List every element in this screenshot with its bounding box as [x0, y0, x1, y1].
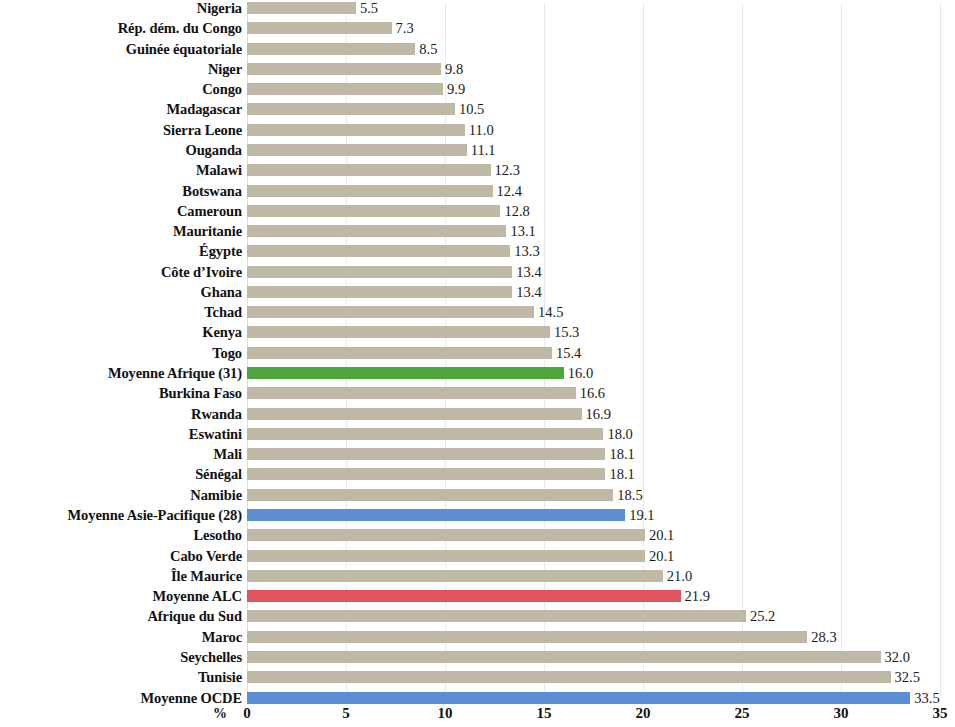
chart-row: Sierra Leone11.0: [0, 120, 955, 140]
bar-value-label: 5.5: [360, 1, 378, 16]
bar: [247, 266, 512, 278]
bar: [247, 164, 491, 176]
bar: [247, 529, 645, 541]
chart-row: Nigeria5.5: [0, 0, 955, 18]
chart-row: Rép. dém. du Congo7.3: [0, 18, 955, 38]
x-tick-label-10: 10: [438, 706, 453, 721]
chart-row: Madagascar10.5: [0, 99, 955, 119]
category-label: Mauritanie: [173, 224, 242, 239]
bar: [247, 2, 356, 14]
bar: [247, 367, 564, 379]
chart-row: Maroc28.3: [0, 627, 955, 647]
chart-row: Eswatini18.0: [0, 424, 955, 444]
category-label: Moyenne Asie-Pacifique (28): [68, 508, 243, 523]
bar-value-label: 12.8: [504, 204, 529, 219]
bar: [247, 692, 910, 704]
chart-row: Seychelles32.0: [0, 647, 955, 667]
bar: [247, 428, 603, 440]
category-label: Moyenne OCDE: [140, 690, 242, 705]
category-label: Congo: [202, 82, 242, 97]
bar: [247, 83, 443, 95]
chart-row: Sénégal18.1: [0, 464, 955, 484]
x-tick-label-0: 0: [243, 706, 251, 721]
chart-row: Congo9.9: [0, 79, 955, 99]
x-tick-label-15: 15: [537, 706, 552, 721]
bar-value-label: 18.1: [609, 447, 634, 462]
category-label: Madagascar: [166, 102, 242, 117]
category-label: Moyenne ALC: [152, 589, 242, 604]
bar-value-label: 12.3: [495, 163, 520, 178]
category-label: Côte d’Ivoire: [161, 264, 242, 279]
category-label: Mali: [213, 447, 242, 462]
bar-value-label: 15.3: [554, 325, 579, 340]
bar: [247, 671, 891, 683]
category-label: Afrique du Sud: [148, 609, 243, 624]
category-label: Sénégal: [195, 467, 242, 482]
x-tick-label-5: 5: [342, 706, 350, 721]
bar-value-label: 16.6: [580, 386, 605, 401]
bar: [247, 286, 512, 298]
bar-value-label: 16.0: [568, 366, 593, 381]
category-label: Burkina Faso: [159, 386, 242, 401]
bar-value-label: 20.1: [649, 548, 674, 563]
bar-value-label: 7.3: [396, 21, 414, 36]
chart-row: Lesotho20.1: [0, 525, 955, 545]
bar: [247, 489, 613, 501]
category-label: Niger: [208, 62, 242, 77]
category-label: Île Maurice: [171, 569, 242, 584]
chart-row: Cabo Verde20.1: [0, 546, 955, 566]
bar-value-label: 8.5: [419, 41, 437, 56]
bar: [247, 306, 534, 318]
category-label: Moyenne Afrique (31): [108, 366, 242, 381]
bar-value-label: 12.4: [497, 183, 522, 198]
bar-value-label: 13.3: [514, 244, 539, 259]
category-label: Rép. dém. du Congo: [118, 21, 242, 36]
category-label: Guinée équatoriale: [126, 41, 242, 56]
bar-value-label: 33.5: [914, 690, 939, 705]
chart-row: Guinée équatoriale8.5: [0, 39, 955, 59]
bar: [247, 205, 500, 217]
chart-row: Niger9.8: [0, 59, 955, 79]
bar: [247, 550, 645, 562]
bar-value-label: 13.4: [516, 264, 541, 279]
chart-row: Afrique du Sud25.2: [0, 606, 955, 626]
bar-value-label: 14.5: [538, 305, 563, 320]
bar-value-label: 25.2: [750, 609, 775, 624]
bar: [247, 509, 625, 521]
bar-value-label: 15.4: [556, 346, 581, 361]
bar: [247, 570, 663, 582]
bar-value-label: 11.0: [469, 122, 494, 137]
category-label: Eswatini: [189, 427, 242, 442]
chart-row: Malawi12.3: [0, 160, 955, 180]
chart-row: Moyenne Asie-Pacifique (28)19.1: [0, 505, 955, 525]
chart-row: Rwanda16.9: [0, 404, 955, 424]
bar: [247, 43, 415, 55]
chart-row: Moyenne ALC21.9: [0, 586, 955, 606]
chart-row: Togo15.4: [0, 343, 955, 363]
category-label: Ghana: [201, 285, 242, 300]
bar-value-label: 9.9: [447, 82, 465, 97]
chart-row: Namibie18.5: [0, 485, 955, 505]
chart-row: Ouganda11.1: [0, 140, 955, 160]
bar: [247, 631, 807, 643]
x-axis: % 05101520253035: [0, 704, 955, 727]
bar: [247, 103, 455, 115]
x-axis-unit-label: %: [213, 707, 227, 721]
bar-value-label: 20.1: [649, 528, 674, 543]
bar-value-label: 19.1: [629, 508, 654, 523]
bar: [247, 22, 392, 34]
bar: [247, 185, 493, 197]
category-label: Égypte: [199, 244, 242, 259]
chart-row: Mali18.1: [0, 444, 955, 464]
category-label: Botswana: [182, 183, 242, 198]
category-label: Tunisie: [198, 670, 242, 685]
category-label: Tchad: [204, 305, 242, 320]
bar-value-label: 13.4: [516, 285, 541, 300]
chart-row: Kenya15.3: [0, 322, 955, 342]
bar: [247, 408, 582, 420]
category-label: Malawi: [196, 163, 242, 178]
bar-value-label: 28.3: [811, 629, 836, 644]
x-tick-label-20: 20: [636, 706, 651, 721]
chart-row: Cameroun12.8: [0, 201, 955, 221]
bar-value-label: 9.8: [445, 62, 463, 77]
